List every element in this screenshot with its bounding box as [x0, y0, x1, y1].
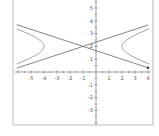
hyperbola-right-branch: [122, 29, 149, 64]
x-tick-label: 3: [133, 75, 136, 81]
x-tick-label: -5: [29, 75, 34, 81]
asymptote-falling: [17, 25, 148, 68]
endpoint-marker: [147, 67, 149, 69]
y-tick-label: -2: [88, 94, 93, 100]
tick-labels: -5-4-3-2-11234-3-2-112345: [29, 5, 150, 113]
x-tick-label: -4: [42, 75, 47, 81]
y-tick-label: 4: [90, 18, 93, 24]
x-tick-label: 2: [120, 75, 123, 81]
points: [147, 67, 149, 69]
y-tick-label: 3: [90, 30, 93, 36]
x-tick-label: -3: [55, 75, 60, 81]
y-tick-label: 1: [90, 56, 93, 62]
y-tick-label: -1: [88, 82, 93, 88]
x-tick-label: 4: [146, 75, 149, 81]
curves: [17, 25, 149, 69]
asymptote-rising: [17, 25, 148, 68]
x-tick-label: -2: [68, 75, 73, 81]
x-tick-label: -1: [81, 75, 86, 81]
x-tick-label: 1: [107, 75, 110, 81]
hyperbola-chart: -5-4-3-2-11234-3-2-112345: [0, 0, 159, 136]
hyperbola-left-branch: [17, 29, 44, 64]
y-tick-label: -3: [88, 107, 93, 113]
y-tick-label: 5: [90, 5, 93, 11]
tick-marks: [18, 2, 148, 124]
